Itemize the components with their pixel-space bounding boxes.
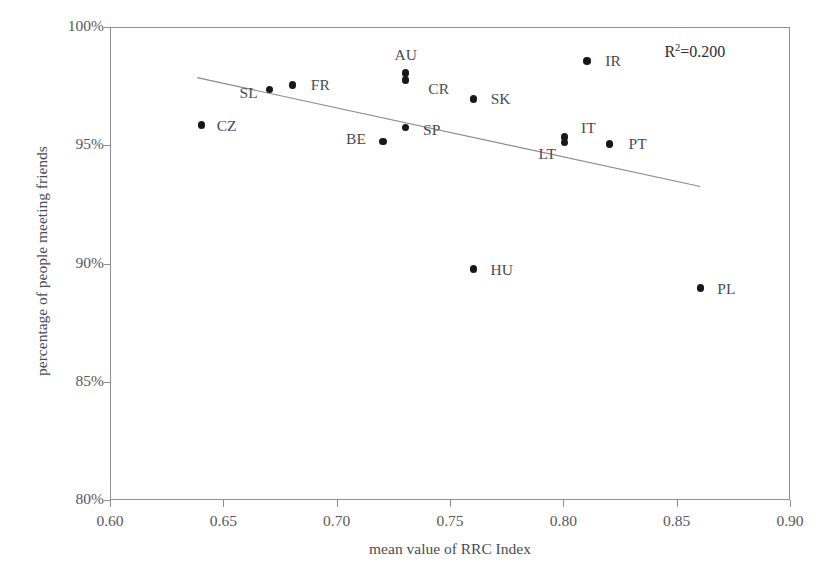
point-label-cz: CZ (217, 117, 237, 135)
point-label-sl: SL (240, 84, 258, 102)
x-tick-mark (677, 500, 678, 507)
point-label-sk: SK (491, 90, 511, 108)
data-point-be (379, 138, 387, 146)
data-point-pl (697, 284, 705, 292)
point-label-hu: HU (490, 261, 512, 279)
data-point-sk (470, 95, 478, 103)
point-label-it: IT (581, 119, 596, 137)
data-point-pt (606, 140, 614, 148)
x-tick-mark (450, 500, 451, 507)
x-tick-label: 0.80 (528, 512, 598, 530)
y-tick-mark (104, 27, 111, 28)
x-tick-mark (223, 500, 224, 507)
point-label-be: BE (346, 130, 366, 148)
y-tick-label: 100% (38, 17, 104, 35)
x-axis-title: mean value of RRC Index (110, 540, 790, 558)
point-label-lt: LT (539, 145, 557, 163)
r-squared-annotation: R2=0.200 (664, 42, 725, 61)
point-label-pt: PT (629, 135, 647, 153)
x-tick-label: 0.60 (75, 512, 145, 530)
y-axis-title: percentage of people meeting friends (33, 61, 51, 461)
clipped-title (430, 0, 760, 3)
point-label-fr: FR (311, 76, 330, 94)
plot-area: CZSLFRBEAUCRSPSKHUITLTIRPTPLR2=0.200 (110, 27, 790, 500)
x-tick-label: 0.75 (415, 512, 485, 530)
point-label-ir: IR (605, 52, 621, 70)
x-tick-mark (110, 500, 111, 507)
data-point-fr (289, 81, 297, 89)
point-label-sp: SP (423, 121, 440, 139)
point-label-au: AU (394, 46, 416, 64)
x-tick-mark (337, 500, 338, 507)
y-tick-mark (104, 382, 111, 383)
y-tick-mark (104, 145, 111, 146)
x-tick-mark (790, 500, 791, 507)
point-label-pl: PL (717, 280, 735, 298)
data-point-cz (198, 121, 206, 129)
plot-svg (111, 28, 791, 501)
data-point-ir (583, 57, 591, 65)
point-label-cr: CR (428, 80, 449, 98)
y-tick-label: 80% (38, 490, 104, 508)
y-tick-mark (104, 264, 111, 265)
r-squared-symbol: R (664, 43, 675, 60)
chart-page: 80%85%90%95%100% CZSLFRBEAUCRSPSKHUITLTI… (0, 0, 830, 582)
x-tick-mark (563, 500, 564, 507)
x-tick-label: 0.85 (642, 512, 712, 530)
x-tick-label: 0.90 (755, 512, 825, 530)
x-tick-label: 0.65 (188, 512, 258, 530)
r-squared-value: =0.200 (680, 43, 725, 60)
x-tick-label: 0.70 (302, 512, 372, 530)
